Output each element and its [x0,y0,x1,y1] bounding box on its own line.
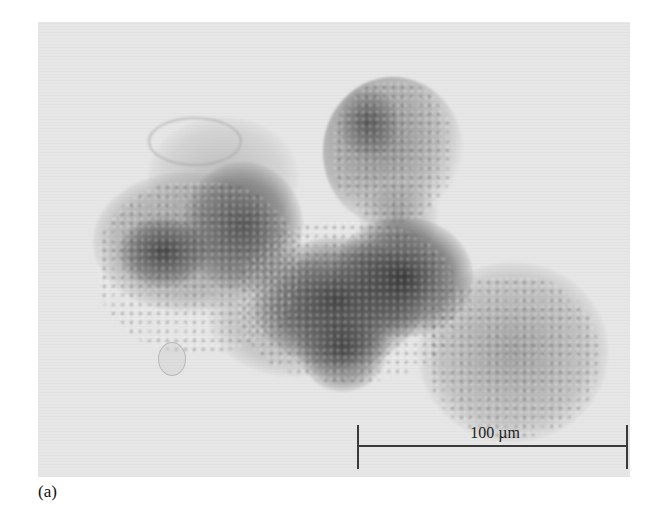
figure: 100 µm (a) [0,0,664,512]
texture-center [238,222,458,382]
scale-bar-line [358,445,628,447]
particle-aggregate [38,22,630,477]
panel-label: (a) [38,482,57,502]
faint-particle [158,342,186,376]
texture-right [428,277,598,437]
texture-top [333,82,453,222]
aggregate-ring-top [148,117,242,166]
scale-bar-label: 100 µm [440,424,550,442]
scale-bar-left-tick [357,425,359,469]
scale-bar-right-tick [626,425,628,469]
micrograph-image [38,22,630,477]
